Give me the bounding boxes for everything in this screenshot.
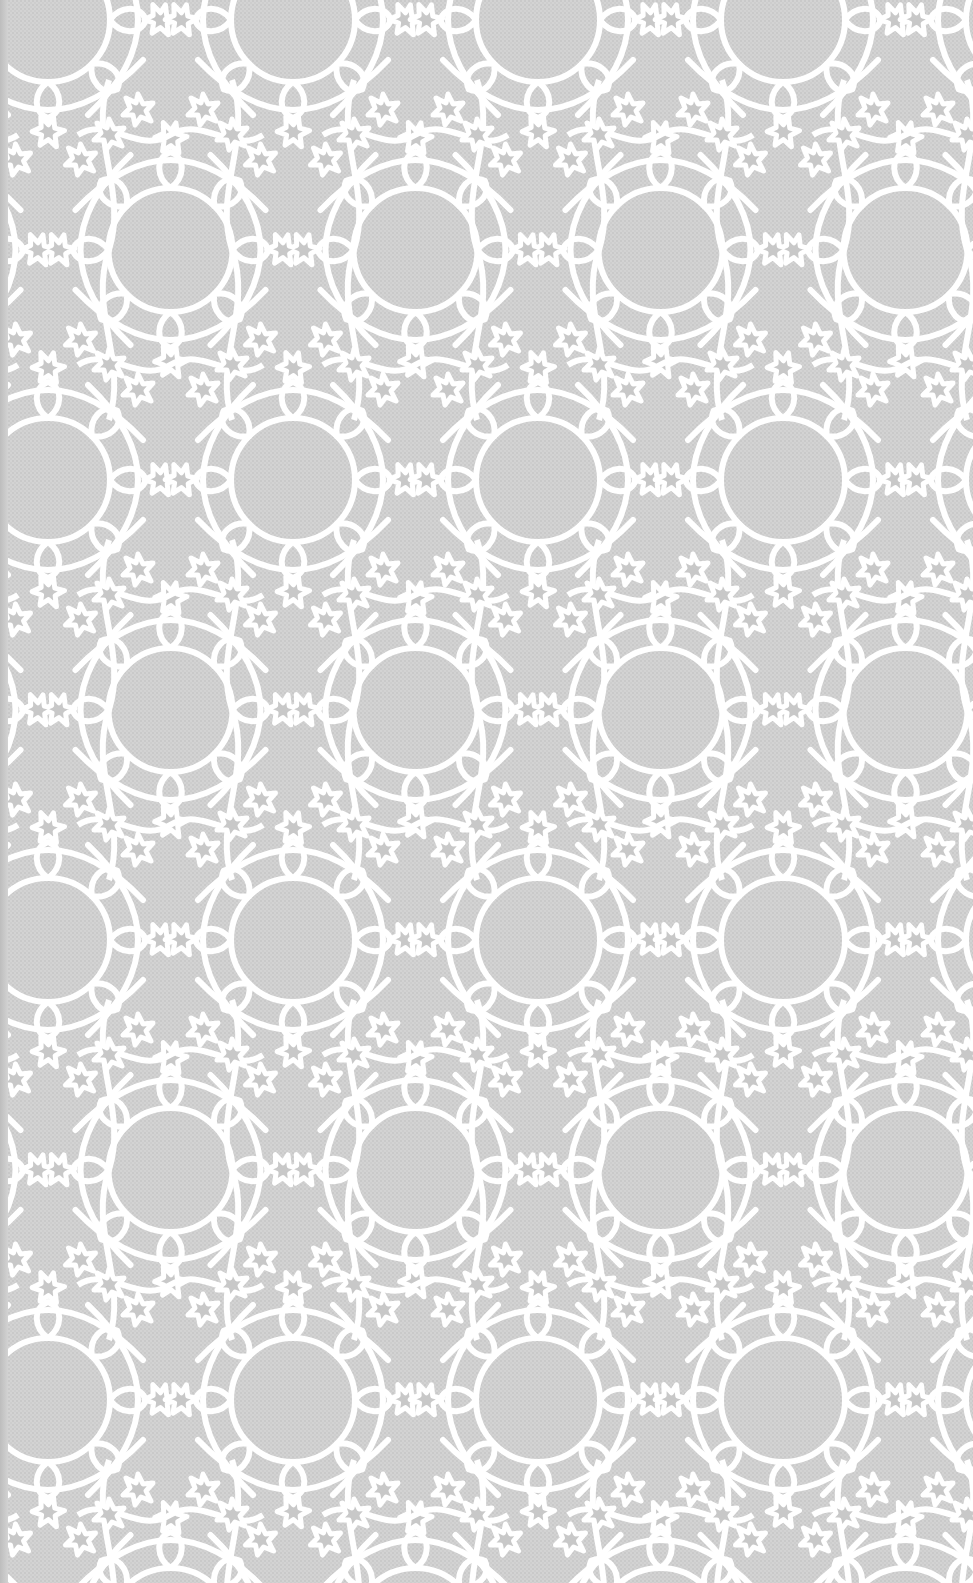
white-lattice-lines [0,0,973,1583]
left-edge-shadow [0,0,8,1583]
tile-pattern-image [0,0,973,1583]
lattice-pattern [0,0,973,1583]
